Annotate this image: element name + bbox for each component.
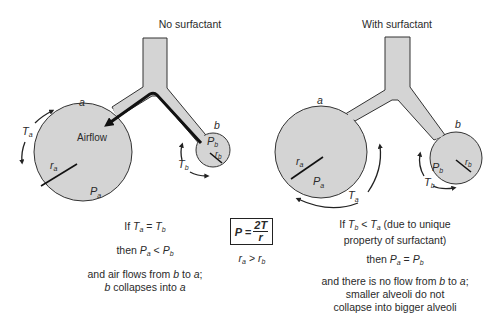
left-title: No surfactant <box>159 18 222 30</box>
right-caption-line4: and there is no flow from b to a; <box>300 275 490 288</box>
right-tension-a-arrow-right <box>368 146 381 192</box>
left-caption-line3: and air flows from b to a; <box>60 268 230 281</box>
left-caption-line4: b collapses into a <box>60 281 230 294</box>
right-title: With surfactant <box>362 18 432 30</box>
left-tension-b-label: Tb <box>178 158 189 171</box>
radius-relation: ra > rb <box>225 252 279 268</box>
right-caption-line6: collapse into bigger alveoli <box>300 301 490 314</box>
right-alveolus-b <box>430 132 482 184</box>
right-caption-line2: property of surfactant) <box>300 234 490 247</box>
right-caption: If Tb < Ta (due to unique property of su… <box>300 218 490 314</box>
right-caption-line5: smaller alveoli do not <box>300 288 490 301</box>
formula-denominator: r <box>259 232 263 243</box>
left-label-a: a <box>79 96 85 108</box>
left-airflow-label: Airflow <box>77 132 108 143</box>
formula-fraction: 2T r <box>253 220 268 243</box>
left-tension-b-arrow-right <box>190 172 207 176</box>
left-caption-line1: If Ta = Tb <box>60 220 230 236</box>
left-label-b: b <box>214 119 220 131</box>
formula-lhs: P = <box>235 226 251 238</box>
right-label-b: b <box>455 118 461 130</box>
right-tension-b-label: Tb <box>424 176 435 189</box>
pressure-formula-box: P = 2T r <box>230 218 273 245</box>
left-caption: If Ta = Tb then Pa < Pb and air flows fr… <box>60 220 230 294</box>
left-alveoli: No surfactant a b Airflow Ta ra Pa Pb rb… <box>22 18 230 201</box>
right-tension-b-arrow-up <box>420 154 425 176</box>
right-tension-b-arrow-right <box>433 186 454 189</box>
left-caption-line2: then Pa < Pb <box>60 244 230 260</box>
right-alveoli: With surfactant a b ra Pa Ta Pb rb Tb <box>275 18 482 208</box>
right-tension-a-label: Ta <box>348 189 359 203</box>
right-caption-line3: then Pa = Pb <box>300 253 490 269</box>
left-tension-a-arrow-down <box>22 142 25 162</box>
right-caption-line1: If Tb < Ta (due to unique <box>300 218 490 234</box>
left-tension-a-label: Ta <box>22 125 33 138</box>
right-label-a: a <box>317 94 323 106</box>
